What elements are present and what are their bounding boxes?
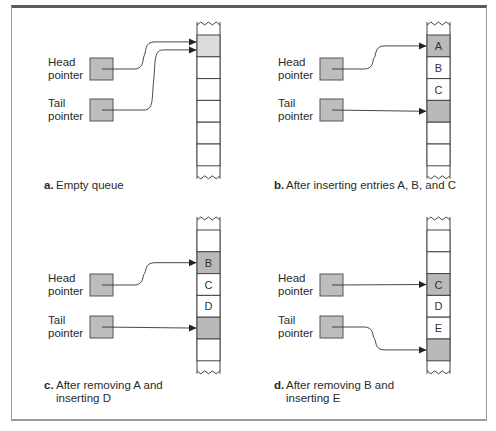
queue-cell <box>197 35 220 57</box>
queue-cell <box>197 144 220 166</box>
panel-caption: c.After removing A andinserting D <box>44 379 163 404</box>
queue-cell: D <box>427 295 450 317</box>
queue-cell <box>197 79 220 101</box>
queue-cell: A <box>427 35 450 57</box>
caption-letter: b. <box>274 179 284 191</box>
queue-storage <box>197 22 220 179</box>
break-top-icon <box>197 217 220 220</box>
queue-cell <box>427 230 450 252</box>
queue-cell: C <box>427 274 450 296</box>
head-pointer-label: Head <box>278 56 306 68</box>
head-pointer-arrow <box>332 285 426 286</box>
caption-letter: a. <box>44 179 54 191</box>
queue-cell <box>427 100 450 122</box>
queue-storage: CDE <box>427 217 450 374</box>
queue-cell <box>427 252 450 274</box>
tail-pointer-label: Tail <box>48 314 65 326</box>
tail-pointer-label: Tail <box>278 97 295 109</box>
panel-caption: d.After removing B andinserting E <box>274 379 394 404</box>
caption-letter: c. <box>44 379 54 391</box>
break-bottom-icon <box>197 176 220 179</box>
head-pointer: Headpointer <box>48 42 196 81</box>
cell-value: A <box>435 40 443 52</box>
queue-cell <box>197 317 220 339</box>
queue-cell: B <box>427 57 450 79</box>
tail-pointer: Tailpointer <box>278 97 426 122</box>
queue-cell: E <box>427 317 450 339</box>
queue-storage: BCD <box>197 217 220 374</box>
queue-cell <box>197 339 220 361</box>
tail-pointer-label: Tail <box>278 314 295 326</box>
head-pointer-label: Head <box>48 272 76 284</box>
caption-text: After removing B and <box>286 379 394 391</box>
cell-value: D <box>435 300 443 312</box>
tail-pointer-label: pointer <box>278 110 313 122</box>
head-pointer: Headpointer <box>278 46 426 81</box>
queue-diagram: HeadpointerTailpointera.Empty queueABCHe… <box>0 0 496 431</box>
queue-cell: B <box>197 252 220 274</box>
queue-cell <box>427 122 450 144</box>
panel-caption: a.Empty queue <box>44 179 124 191</box>
caption-text: inserting D <box>56 392 111 404</box>
tail-pointer-label: Tail <box>48 97 65 109</box>
queue-cell <box>427 339 450 361</box>
panel-d: CDEHeadpointerTailpointerd.After removin… <box>274 217 450 404</box>
head-pointer-label: pointer <box>278 69 313 81</box>
head-pointer-label: Head <box>278 272 306 284</box>
tail-pointer-label: pointer <box>278 327 313 339</box>
cell-value: C <box>205 279 213 291</box>
tail-pointer-label: pointer <box>48 327 83 339</box>
caption-letter: d. <box>274 379 284 391</box>
cell-value: C <box>435 84 443 96</box>
break-top-icon <box>427 22 450 25</box>
panel-c: BCDHeadpointerTailpointerc.After removin… <box>44 217 220 404</box>
head-pointer-label: pointer <box>48 285 83 297</box>
queue-cell: C <box>427 79 450 101</box>
cell-value: C <box>435 279 443 291</box>
head-pointer-label: pointer <box>278 285 313 297</box>
tail-pointer-arrow <box>332 327 426 350</box>
queue-cell <box>197 100 220 122</box>
queue-cell <box>197 57 220 79</box>
queue-cell <box>197 122 220 144</box>
break-top-icon <box>427 217 450 220</box>
panel-a: HeadpointerTailpointera.Empty queue <box>44 22 220 191</box>
panel-caption: b.After inserting entries A, B, and C <box>274 179 456 191</box>
head-pointer: Headpointer <box>278 272 426 297</box>
head-pointer-label: pointer <box>48 69 83 81</box>
tail-pointer-arrow <box>102 327 196 328</box>
tail-pointer-arrow <box>102 50 196 110</box>
tail-pointer-label: pointer <box>48 110 83 122</box>
cell-value: E <box>435 322 442 334</box>
queue-cell <box>427 144 450 166</box>
break-bottom-icon <box>427 371 450 374</box>
queue-cell: C <box>197 274 220 296</box>
caption-text: After removing A and <box>56 379 163 391</box>
cell-value: D <box>205 300 213 312</box>
head-pointer-arrow <box>102 263 196 285</box>
cell-value: B <box>435 62 442 74</box>
head-pointer-label: Head <box>48 56 76 68</box>
head-pointer: Headpointer <box>48 263 196 297</box>
break-bottom-icon <box>197 371 220 374</box>
caption-text: After inserting entries A, B, and C <box>286 179 456 191</box>
tail-pointer: Tailpointer <box>278 314 426 350</box>
queue-cell: D <box>197 295 220 317</box>
break-top-icon <box>197 22 220 25</box>
queue-cell <box>197 230 220 252</box>
queue-storage: ABC <box>427 22 450 179</box>
cell-value: B <box>205 257 212 269</box>
panel-b: ABCHeadpointerTailpointerb.After inserti… <box>274 22 456 191</box>
caption-text: inserting E <box>286 392 341 404</box>
caption-text: Empty queue <box>56 179 124 191</box>
head-pointer-arrow <box>332 46 426 69</box>
head-pointer-arrow <box>102 42 196 69</box>
tail-pointer: Tailpointer <box>48 314 196 339</box>
tail-pointer-arrow <box>332 110 426 111</box>
